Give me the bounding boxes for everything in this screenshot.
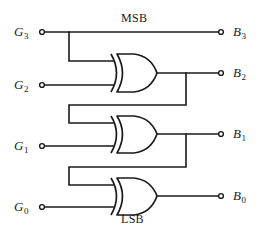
terminal-g0[interactable] (40, 205, 45, 210)
terminal-b0[interactable] (219, 194, 224, 199)
terminal-b2[interactable] (219, 71, 224, 76)
wire-g3-branch-to-xor1 (69, 32, 113, 61)
label-msb: MSB (121, 12, 147, 24)
terminal-g3[interactable] (40, 30, 45, 35)
xor1-back-arc (111, 54, 117, 92)
label-g1: G1 (14, 139, 28, 152)
xor3-back-arc (111, 178, 117, 215)
terminal-g1[interactable] (40, 144, 45, 149)
xor1-body (117, 54, 157, 92)
gray-to-binary-circuit-diagram: G3 G2 G1 G0 B3 B2 B1 B0 MSB LSB (0, 0, 266, 241)
label-b3: B3 (233, 25, 245, 38)
label-lsb: LSB (121, 213, 144, 225)
label-g2: G2 (14, 78, 28, 91)
label-b0: B0 (233, 189, 245, 202)
xor2-body (117, 116, 157, 153)
label-b2: B2 (233, 66, 245, 79)
terminal-b3[interactable] (219, 30, 224, 35)
terminal-b1[interactable] (219, 132, 224, 137)
xor2-back-arc (111, 116, 117, 153)
label-b1: B1 (233, 127, 245, 140)
xor3-body (117, 178, 157, 215)
terminal-g2[interactable] (40, 83, 45, 88)
circuit-schematic (0, 0, 266, 241)
label-g0: G0 (14, 200, 28, 213)
label-g3: G3 (14, 25, 28, 38)
